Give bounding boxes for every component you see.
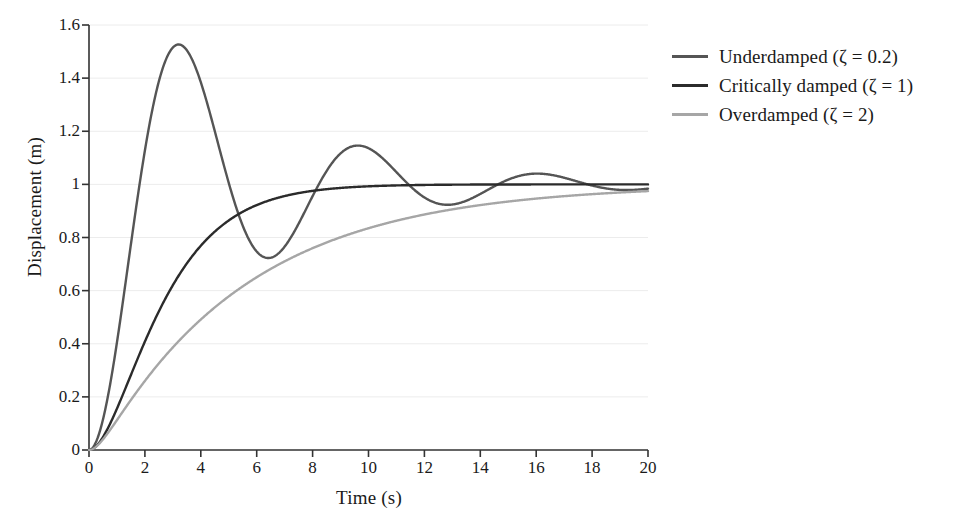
series-line-3	[89, 191, 648, 450]
series-line-2	[89, 184, 648, 450]
legend-line-swatch	[672, 113, 708, 116]
legend-label: Overdamped (ζ = 2)	[719, 105, 874, 124]
legend-label: Critically damped (ζ = 1)	[719, 76, 913, 95]
legend-item[interactable]: Critically damped (ζ = 1)	[672, 71, 955, 100]
legend-item[interactable]: Underdamped (ζ = 0.2)	[672, 42, 955, 71]
chart-legend: Underdamped (ζ = 0.2)Critically damped (…	[672, 42, 955, 129]
legend-line-swatch	[672, 55, 708, 58]
legend-item[interactable]: Overdamped (ζ = 2)	[672, 100, 955, 129]
chart-figure: Displacement (m) Time (s) 00.20.40.60.81…	[0, 0, 955, 524]
series-line-1	[89, 44, 648, 450]
legend-line-swatch	[672, 84, 708, 87]
legend-label: Underdamped (ζ = 0.2)	[719, 47, 898, 66]
